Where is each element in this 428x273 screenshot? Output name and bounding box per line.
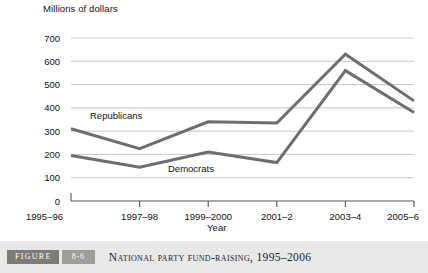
y-tick-label: 500: [44, 79, 60, 90]
data-line-republicans: [71, 54, 414, 148]
x-tick-marks-group: [140, 201, 414, 207]
figure-container: Millions of dollars 01002003004005006007…: [0, 0, 428, 273]
y-tick-label: 600: [44, 56, 60, 67]
y-tick-label: 200: [44, 149, 60, 160]
figure-caption-bar: FIGURE 8-6 National Party Fund-Raising, …: [0, 241, 428, 273]
series-label-democrats: Democrats: [168, 163, 214, 174]
series-label-republicans: Republicans: [90, 110, 143, 121]
y-tick-label: 300: [44, 126, 60, 137]
figure-label-badge: FIGURE: [7, 250, 59, 264]
x-axis-title: Year: [207, 222, 227, 233]
x-tick-label: 2003–4: [330, 211, 362, 222]
x-tick-label: 1997–98: [121, 211, 158, 222]
chart-plot-area: Millions of dollars 01002003004005006007…: [0, 0, 428, 238]
line-chart-svg: 0100200300400500600700 1995–961997–98199…: [0, 0, 428, 238]
y-tick-label: 700: [44, 33, 60, 44]
y-tick-label: 0: [55, 196, 60, 207]
x-tick-labels-group: 1995–961997–981999–20002001–22003–42005–…: [26, 211, 419, 222]
y-tick-label: 100: [44, 172, 60, 183]
figure-number-badge: 8-6: [62, 250, 95, 264]
x-tick-label: 2005–6: [387, 211, 419, 222]
y-tick-label: 400: [44, 102, 60, 113]
x-tick-label: 1999–2000: [184, 211, 232, 222]
x-tick-label: 2001–2: [261, 211, 293, 222]
y-tick-labels-group: 0100200300400500600700: [44, 33, 60, 207]
x-tick-label: 1995–96: [26, 211, 63, 222]
figure-caption-text: National Party Fund-Raising, 1995–2006: [109, 251, 312, 263]
